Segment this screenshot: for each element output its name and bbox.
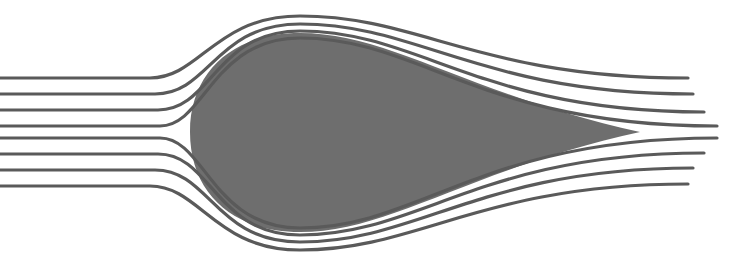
flow-diagram: [0, 0, 737, 266]
